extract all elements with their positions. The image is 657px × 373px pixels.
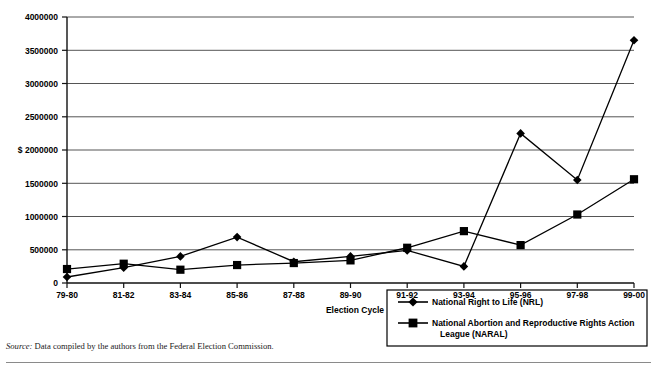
x-tick-label: 83-84 bbox=[170, 290, 192, 300]
x-axis-title: Election Cycle bbox=[326, 305, 384, 315]
y-tick-label: 3500000 bbox=[25, 46, 58, 56]
y-tick-label: 500000 bbox=[30, 245, 59, 255]
data-point-square bbox=[517, 241, 525, 249]
legend-label-naral-line2: League (NARAL) bbox=[440, 329, 508, 339]
chart-figure: 4000000 3500000 3000000 2500000 $ 200000… bbox=[0, 0, 657, 373]
legend-label-naral-line1: National Abortion and Reproductive Right… bbox=[432, 318, 634, 328]
y-tick-label: 3000000 bbox=[25, 79, 58, 89]
x-tick-label: 79-80 bbox=[56, 290, 78, 300]
data-point-square bbox=[120, 260, 128, 268]
bottom-divider bbox=[6, 362, 651, 363]
data-point-square bbox=[460, 227, 468, 235]
data-point-square bbox=[346, 256, 354, 264]
source-note: Source: Data compiled by the authors fro… bbox=[6, 341, 274, 351]
data-point-square bbox=[290, 259, 298, 267]
x-tick-label: 81-82 bbox=[113, 290, 135, 300]
source-note-text: Data compiled by the authors from the Fe… bbox=[35, 341, 274, 351]
y-tick-label: 2500000 bbox=[25, 112, 58, 122]
data-point-square bbox=[176, 266, 184, 274]
data-point-square bbox=[403, 244, 411, 252]
chart-legend: National Right to Life (NRL) National Ab… bbox=[387, 290, 647, 346]
y-tick-label: 0 bbox=[53, 278, 58, 288]
y-tick-label: 1000000 bbox=[25, 212, 58, 222]
data-point-square bbox=[573, 210, 581, 218]
square-marker-icon bbox=[409, 319, 418, 328]
y-tick-label: 1500000 bbox=[25, 179, 58, 189]
x-axis-labels: 79-80 81-82 83-84 85-86 87-88 89-90 91-9… bbox=[56, 290, 645, 300]
x-tick-label: 89-90 bbox=[340, 290, 362, 300]
x-tick-label: 85-86 bbox=[226, 290, 248, 300]
source-note-prefix: Source: bbox=[6, 341, 32, 351]
legend-entry-naral[interactable]: National Abortion and Reproductive Right… bbox=[398, 318, 634, 339]
data-point-square bbox=[63, 265, 71, 273]
x-tick-label: 87-88 bbox=[283, 290, 305, 300]
y-tick-label: $ 2000000 bbox=[18, 145, 58, 155]
x-tick-label: 91-92 bbox=[396, 290, 418, 300]
x-tick-marks bbox=[67, 283, 634, 288]
data-point-square bbox=[233, 261, 241, 269]
x-tick-label: 97-98 bbox=[566, 290, 588, 300]
legend-label-nrl: National Right to Life (NRL) bbox=[432, 297, 543, 307]
line-chart-svg: 4000000 3500000 3000000 2500000 $ 200000… bbox=[0, 0, 657, 373]
data-point-square bbox=[630, 175, 638, 183]
legend-entry-nrl[interactable]: National Right to Life (NRL) bbox=[398, 297, 543, 307]
x-tick-label: 99-00 bbox=[623, 290, 645, 300]
y-tick-marks bbox=[62, 17, 67, 283]
y-axis-labels: 4000000 3500000 3000000 2500000 $ 200000… bbox=[18, 12, 58, 288]
y-tick-label: 4000000 bbox=[25, 12, 58, 22]
